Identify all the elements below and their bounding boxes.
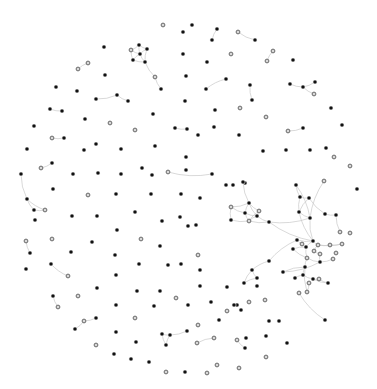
graph-node-hollow[interactable] bbox=[212, 336, 216, 340]
graph-node-filled[interactable] bbox=[205, 60, 209, 64]
graph-node-filled[interactable] bbox=[137, 43, 141, 47]
graph-node-filled[interactable] bbox=[186, 224, 190, 228]
graph-node-filled[interactable] bbox=[250, 98, 254, 102]
graph-node-hollow[interactable] bbox=[307, 281, 311, 285]
graph-node-filled[interactable] bbox=[213, 108, 217, 112]
graph-node-hollow[interactable] bbox=[338, 230, 342, 234]
graph-node-hollow[interactable] bbox=[318, 252, 322, 256]
graph-node-filled[interactable] bbox=[340, 123, 344, 127]
graph-node-filled[interactable] bbox=[114, 330, 118, 334]
graph-node-hollow[interactable] bbox=[174, 296, 178, 300]
graph-node-filled[interactable] bbox=[303, 265, 307, 269]
graph-node-filled[interactable] bbox=[215, 27, 219, 31]
graph-node-filled[interactable] bbox=[232, 303, 236, 307]
graph-node-filled[interactable] bbox=[301, 126, 305, 130]
graph-node-filled[interactable] bbox=[307, 196, 311, 200]
graph-node-filled[interactable] bbox=[224, 77, 228, 81]
graph-node-filled[interactable] bbox=[301, 85, 305, 89]
graph-node-filled[interactable] bbox=[49, 262, 53, 266]
graph-node-filled[interactable] bbox=[231, 183, 235, 187]
graph-node-hollow[interactable] bbox=[133, 128, 137, 132]
graph-node-filled[interactable] bbox=[131, 58, 135, 62]
graph-node-hollow[interactable] bbox=[328, 243, 332, 247]
graph-node-hollow[interactable] bbox=[76, 294, 80, 298]
graph-node-hollow[interactable] bbox=[82, 319, 86, 323]
graph-node-filled[interactable] bbox=[198, 284, 202, 288]
graph-node-filled[interactable] bbox=[181, 52, 185, 56]
graph-node-filled[interactable] bbox=[95, 286, 99, 290]
graph-node-filled[interactable] bbox=[241, 180, 245, 184]
graph-node-filled[interactable] bbox=[32, 124, 36, 128]
graph-node-filled[interactable] bbox=[184, 168, 188, 172]
graph-node-filled[interactable] bbox=[32, 208, 36, 212]
graph-node-filled[interactable] bbox=[168, 333, 172, 337]
graph-node-filled[interactable] bbox=[158, 244, 162, 248]
graph-node-filled[interactable] bbox=[151, 112, 155, 116]
graph-node-filled[interactable] bbox=[295, 238, 299, 242]
graph-node-filled[interactable] bbox=[196, 133, 200, 137]
graph-node-filled[interactable] bbox=[255, 284, 259, 288]
graph-node-hollow[interactable] bbox=[332, 155, 336, 159]
graph-node-filled[interactable] bbox=[114, 273, 118, 277]
graph-node-filled[interactable] bbox=[173, 126, 177, 130]
graph-node-hollow[interactable] bbox=[129, 48, 133, 52]
graph-node-filled[interactable] bbox=[210, 38, 214, 42]
graph-node-filled[interactable] bbox=[115, 93, 119, 97]
graph-node-filled[interactable] bbox=[96, 171, 100, 175]
graph-node-filled[interactable] bbox=[239, 308, 243, 312]
graph-node-hollow[interactable] bbox=[56, 305, 60, 309]
graph-node-filled[interactable] bbox=[33, 218, 37, 222]
graph-node-filled[interactable] bbox=[19, 172, 23, 176]
graph-node-filled[interactable] bbox=[160, 332, 164, 336]
graph-node-filled[interactable] bbox=[267, 220, 271, 224]
graph-node-filled[interactable] bbox=[217, 318, 221, 322]
graph-node-filled[interactable] bbox=[51, 187, 55, 191]
graph-node-hollow[interactable] bbox=[265, 59, 269, 63]
graph-node-filled[interactable] bbox=[166, 263, 170, 267]
graph-node-hollow[interactable] bbox=[43, 208, 47, 212]
graph-node-filled[interactable] bbox=[133, 210, 137, 214]
graph-node-hollow[interactable] bbox=[237, 366, 241, 370]
graph-node-filled[interactable] bbox=[54, 85, 58, 89]
graph-node-filled[interactable] bbox=[70, 214, 74, 218]
graph-node-filled[interactable] bbox=[126, 99, 130, 103]
graph-node-filled[interactable] bbox=[291, 247, 295, 251]
graph-node-filled[interactable] bbox=[250, 268, 254, 272]
graph-node-filled[interactable] bbox=[318, 260, 322, 264]
graph-node-filled[interactable] bbox=[264, 334, 268, 338]
graph-node-filled[interactable] bbox=[237, 133, 241, 137]
graph-node-hollow[interactable] bbox=[229, 52, 233, 56]
graph-node-hollow[interactable] bbox=[215, 363, 219, 367]
graph-node-filled[interactable] bbox=[311, 277, 315, 281]
graph-node-filled[interactable] bbox=[119, 147, 123, 151]
graph-node-filled[interactable] bbox=[147, 360, 151, 364]
graph-node-hollow[interactable] bbox=[195, 341, 199, 345]
graph-node-hollow[interactable] bbox=[205, 371, 209, 375]
graph-node-filled[interactable] bbox=[164, 343, 168, 347]
graph-node-filled[interactable] bbox=[243, 346, 247, 350]
graph-node-filled[interactable] bbox=[244, 336, 248, 340]
graph-node-filled[interactable] bbox=[83, 117, 87, 121]
graph-node-filled[interactable] bbox=[293, 276, 297, 280]
graph-node-hollow[interactable] bbox=[322, 179, 326, 183]
graph-node-hollow[interactable] bbox=[76, 67, 80, 71]
graph-node-filled[interactable] bbox=[140, 166, 144, 170]
graph-node-filled[interactable] bbox=[179, 262, 183, 266]
graph-node-hollow[interactable] bbox=[196, 323, 200, 327]
graph-node-filled[interactable] bbox=[137, 262, 141, 266]
graph-node-filled[interactable] bbox=[334, 213, 338, 217]
graph-node-hollow[interactable] bbox=[161, 23, 165, 27]
graph-node-filled[interactable] bbox=[179, 192, 183, 196]
graph-node-filled[interactable] bbox=[294, 183, 298, 187]
graph-node-filled[interactable] bbox=[229, 218, 233, 222]
graph-node-filled[interactable] bbox=[184, 74, 188, 78]
graph-node-filled[interactable] bbox=[212, 125, 216, 129]
graph-node-filled[interactable] bbox=[209, 300, 213, 304]
graph-node-hollow[interactable] bbox=[257, 209, 261, 213]
graph-node-hollow[interactable] bbox=[305, 290, 309, 294]
graph-node-hollow[interactable] bbox=[236, 30, 240, 34]
graph-node-filled[interactable] bbox=[242, 281, 246, 285]
graph-node-filled[interactable] bbox=[114, 303, 118, 307]
graph-node-hollow[interactable] bbox=[264, 115, 268, 119]
graph-node-filled[interactable] bbox=[255, 214, 259, 218]
